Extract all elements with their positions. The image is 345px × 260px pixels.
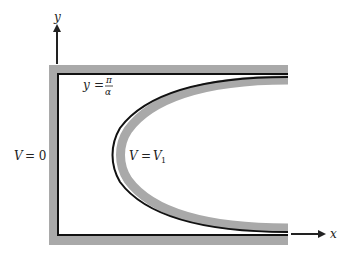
label-boundary-y: y = π α — [82, 75, 113, 97]
label-y-eq: = — [94, 78, 104, 92]
y-axis-label: y — [53, 10, 61, 24]
x-axis-label: x — [330, 227, 337, 241]
electrode-diagram: y x y = π α V = 0 V = V 1 — [0, 0, 345, 260]
label-v0-lhs: V — [14, 149, 24, 163]
axes: y x — [53, 10, 337, 241]
grounded-boundary — [49, 65, 288, 245]
label-v1-subscript: 1 — [161, 156, 166, 165]
label-v1-lhs: V — [129, 149, 139, 163]
label-y-denominator: α — [105, 87, 111, 97]
label-curved-electrode: V = V 1 — [129, 149, 166, 165]
curved-electrode — [113, 77, 289, 232]
label-y-lhs: y — [82, 78, 90, 92]
label-v1-eq: = — [141, 149, 151, 163]
top-band — [49, 65, 288, 74]
bottom-band — [49, 236, 288, 245]
left-band — [49, 65, 58, 245]
label-v0-eq: = 0 — [25, 149, 47, 163]
label-y-numerator: π — [105, 75, 113, 85]
curved-electrode-line — [113, 77, 289, 232]
label-left-plate: V = 0 — [14, 149, 47, 163]
